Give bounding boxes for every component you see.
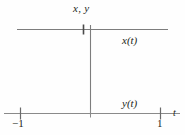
vertical-axis-label: x, y [73, 3, 89, 14]
t-axis-label: t [173, 108, 176, 118]
plot-canvas [0, 0, 185, 135]
tick-label-minus-one: −1 [12, 118, 24, 129]
x-of-t-label: x(t) [122, 35, 137, 46]
y-of-t-label: y(t) [122, 98, 137, 109]
tick-label-plus-one: 1 [157, 118, 163, 129]
signal-plot-figure: x, y x(t) y(t) t −1 1 [0, 0, 185, 135]
